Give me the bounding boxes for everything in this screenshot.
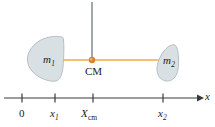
figure-canvas: [0, 0, 215, 127]
tick-label-x2-subscript: 2: [163, 113, 167, 122]
mass-2-subscript: 2: [171, 60, 175, 69]
center-of-mass-dot-highlight: [90, 58, 92, 60]
tick-label-xcm: Xcm: [81, 108, 97, 121]
mass-2-label: m2: [163, 55, 175, 68]
tick-label-0-text: 0: [19, 107, 25, 119]
tick-label-x2: x2: [158, 108, 167, 121]
center-of-mass-figure: m1 m2 CM 0 x1 Xcm x2 x: [0, 0, 215, 127]
x-axis-arrowhead: [197, 94, 204, 101]
mass-1-subscript: 1: [51, 59, 55, 68]
tick-label-xcm-subscript: cm: [88, 113, 97, 122]
tick-label-x1: x1: [50, 108, 59, 121]
mass-1-label: m1: [43, 54, 55, 67]
tick-label-0: 0: [19, 108, 25, 119]
tick-label-x1-subscript: 1: [55, 113, 59, 122]
mass-2-symbol: m: [163, 54, 171, 66]
center-of-mass-label: CM: [85, 66, 102, 77]
x-axis-label: x: [205, 91, 210, 102]
mass-1-symbol: m: [43, 53, 51, 65]
tick-label-xcm-text: X: [81, 107, 88, 119]
